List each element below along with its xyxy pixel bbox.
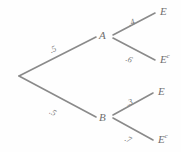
branch-root-to-B bbox=[19, 76, 96, 117]
tree-branches-svg bbox=[0, 0, 181, 152]
superscript-c-upper: c bbox=[167, 52, 170, 59]
probability-tree-diagram: A B E Ec E Ec .5 .5 .4 .6 .3 .7 bbox=[0, 0, 181, 152]
node-label-Ec-lower: Ec bbox=[158, 133, 168, 145]
node-label-B: B bbox=[99, 112, 106, 123]
branch-B-to-Ec bbox=[113, 118, 153, 140]
node-label-Ec-upper: Ec bbox=[160, 53, 170, 65]
node-E-upper-text: E bbox=[160, 5, 167, 17]
node-B-text: B bbox=[99, 111, 106, 123]
node-E-lower-text: E bbox=[158, 85, 165, 97]
node-Ec-lower-text: E bbox=[158, 133, 165, 145]
superscript-c-lower: c bbox=[165, 132, 168, 139]
node-A-text: A bbox=[99, 29, 106, 41]
branch-A-to-Ec bbox=[113, 38, 155, 60]
node-label-E-lower: E bbox=[158, 86, 165, 97]
branch-root-to-A bbox=[19, 37, 96, 76]
node-Ec-upper-text: E bbox=[160, 53, 167, 65]
node-label-E-upper: E bbox=[160, 6, 167, 17]
node-label-A: A bbox=[99, 30, 106, 41]
